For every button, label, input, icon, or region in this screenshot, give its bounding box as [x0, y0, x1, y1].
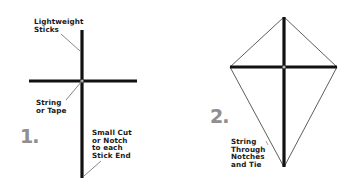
- label-lightweight-sticks: Lightweight Sticks: [34, 18, 84, 33]
- step-number-2: 2.: [210, 105, 228, 127]
- step-number-1: 1.: [20, 125, 38, 147]
- leader-string: [266, 141, 268, 145]
- step2-joint: [282, 65, 285, 68]
- leader-joint: [66, 81, 82, 100]
- leader-notch: [84, 161, 101, 176]
- label-string-through-notches: String Through Notches and Tie: [231, 138, 266, 168]
- leader-sticks: [61, 34, 80, 51]
- label-small-cut-notch: Small Cut or Notch to each Stick End: [92, 129, 132, 159]
- label-string-or-tape: String or Tape: [36, 99, 67, 114]
